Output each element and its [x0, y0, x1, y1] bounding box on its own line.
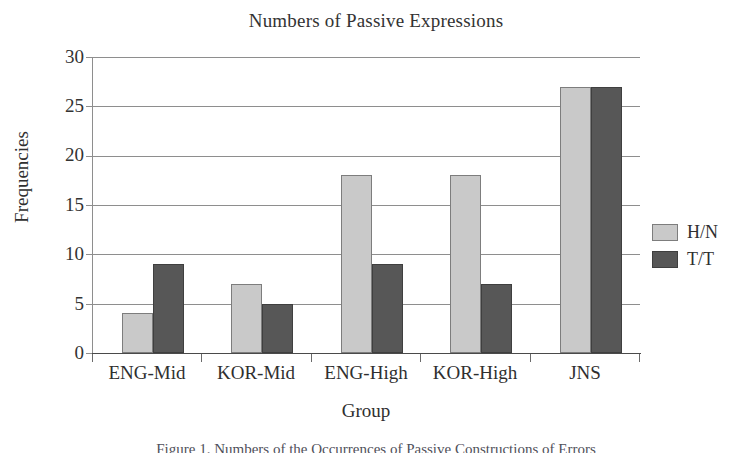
figure-caption: Figure 1. Numbers of the Occurrences of … — [0, 441, 752, 453]
gridline — [92, 57, 640, 58]
y-tick-label: 30 — [44, 47, 84, 66]
plot-area — [92, 57, 640, 353]
bar-hn-jns — [560, 87, 591, 353]
bar-tt-kor-high — [481, 284, 512, 353]
x-tick-label-kor-high: KOR-High — [420, 362, 530, 384]
legend-swatch-icon-hn — [652, 224, 678, 241]
x-axis-tick — [530, 354, 531, 362]
bar-hn-eng-mid — [122, 313, 153, 353]
gridline — [92, 156, 640, 157]
y-tick-label: 20 — [44, 145, 84, 164]
x-tick-label-eng-mid: ENG-Mid — [92, 362, 202, 384]
chart-legend: H/N T/T — [652, 219, 718, 273]
x-axis-tick — [639, 354, 640, 362]
y-tick-label: 0 — [44, 343, 84, 362]
bar-tt-eng-high — [372, 264, 403, 353]
y-axis-title: Frequencies — [11, 82, 33, 272]
legend-label-tt: T/T — [687, 249, 714, 270]
gridline — [92, 106, 640, 107]
y-tick-label: 5 — [44, 294, 84, 313]
legend-label-hn: H/N — [687, 222, 718, 243]
y-axis-line — [92, 57, 93, 354]
x-tick-label-kor-mid: KOR-Mid — [201, 362, 311, 384]
bar-tt-jns — [591, 87, 622, 353]
x-tick-label-eng-high: ENG-High — [311, 362, 421, 384]
x-axis-line — [92, 353, 641, 354]
bar-tt-eng-mid — [153, 264, 184, 353]
x-axis-tick — [201, 354, 202, 362]
x-axis-tick — [92, 354, 93, 362]
y-tick-label: 15 — [44, 195, 84, 214]
bar-tt-kor-mid — [262, 304, 293, 353]
x-axis-title: Group — [92, 400, 640, 422]
bar-hn-kor-high — [450, 175, 481, 353]
legend-item-hn: H/N — [652, 219, 718, 246]
legend-swatch-icon-tt — [652, 251, 678, 268]
legend-item-tt: T/T — [652, 246, 718, 273]
y-axis-tick-labels: 30 25 20 15 10 5 0 — [42, 57, 84, 353]
x-axis-tick — [311, 354, 312, 362]
bar-hn-eng-high — [341, 175, 372, 353]
chart-title: Numbers of Passive Expressions — [0, 10, 752, 32]
y-tick-label: 25 — [44, 96, 84, 115]
bar-hn-kor-mid — [231, 284, 262, 353]
x-axis-tick — [420, 354, 421, 362]
y-tick-label: 10 — [44, 244, 84, 263]
x-tick-label-jns: JNS — [530, 362, 640, 384]
